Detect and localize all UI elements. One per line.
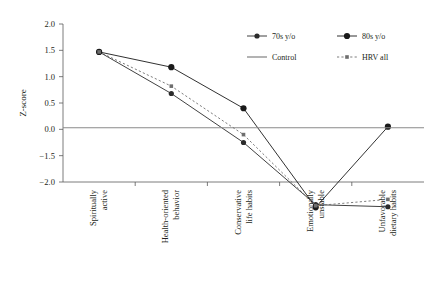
legend-label: Control — [272, 53, 297, 62]
data-point-marker — [241, 140, 246, 145]
x-category-label: Spirituallyactive — [88, 189, 109, 226]
legend-marker — [345, 55, 349, 59]
x-category-line1: Health-oriented — [160, 189, 170, 243]
legend-marker — [254, 33, 259, 38]
y-tick-label: 1.0 — [44, 72, 55, 82]
legend-label: 70s y/o — [272, 32, 295, 41]
legend-label: HRV all — [362, 53, 389, 62]
x-category-label: Emotionallyunstable — [305, 189, 326, 232]
x-category-line2: behavior — [171, 190, 181, 220]
data-point-marker — [242, 133, 246, 137]
series-line — [99, 52, 388, 207]
x-category-label: Health-orientedbehavior — [160, 189, 181, 243]
x-category-line2: life habits — [244, 190, 254, 224]
legend: 70s y/o80s y/oControlHRV all — [247, 32, 389, 62]
data-point-marker — [170, 84, 174, 88]
x-category-line2: dietary habits — [388, 190, 398, 236]
data-series — [96, 49, 391, 211]
data-point-marker — [314, 204, 318, 208]
y-tick-label: 0.5 — [44, 98, 55, 108]
x-axis-labels: SpirituallyactiveHealth-orientedbehavior… — [88, 189, 398, 243]
axis-lines — [63, 24, 424, 182]
legend-entry[interactable]: 70s y/o — [247, 32, 295, 41]
y-tick-label: −2.0 — [40, 177, 55, 187]
data-point-marker — [386, 198, 390, 202]
legend-marker — [344, 33, 350, 39]
y-tick-label: −1.5 — [40, 151, 55, 161]
data-point-marker — [169, 91, 174, 96]
y-tick-label: 2.0 — [44, 19, 55, 29]
x-category-line1: Emotionally — [305, 189, 315, 232]
z-score-line-chart: 2.01.51.00.50.0−1.5−2.0Z-scoreSpirituall… — [0, 0, 442, 281]
y-tick-label: 0.0 — [44, 124, 55, 134]
y-axis-title: Z-score — [18, 89, 28, 116]
x-category-line1: Conservative — [233, 190, 243, 235]
legend-label: 80s y/o — [362, 32, 385, 41]
data-point-marker — [385, 124, 391, 130]
series-line — [99, 52, 388, 207]
data-series — [97, 49, 391, 209]
data-point-marker — [385, 204, 390, 209]
data-series-group — [63, 49, 424, 211]
x-axis-ticks — [135, 182, 352, 186]
data-series — [97, 50, 389, 207]
series-line — [99, 52, 388, 206]
axes — [63, 24, 424, 182]
x-category-line1: Spiritually — [88, 189, 98, 226]
y-axis-ticks: 2.01.51.00.50.0−1.5−2.0 — [40, 19, 63, 187]
legend-entry[interactable]: 80s y/o — [337, 32, 385, 41]
legend-entry[interactable]: HRV all — [337, 53, 389, 62]
chart-container: 2.01.51.00.50.0−1.5−2.0Z-scoreSpirituall… — [0, 0, 442, 281]
x-category-line1: Unfavorable — [377, 190, 387, 233]
x-category-line2: active — [99, 190, 109, 211]
x-category-label: Unfavorabledietary habits — [377, 190, 398, 236]
data-point-marker — [97, 50, 101, 54]
data-point-marker — [168, 64, 174, 70]
x-category-label: Conservativelife habits — [233, 190, 254, 235]
legend-entry[interactable]: Control — [247, 53, 297, 62]
data-point-marker — [240, 105, 246, 111]
y-tick-label: 1.5 — [44, 45, 55, 55]
